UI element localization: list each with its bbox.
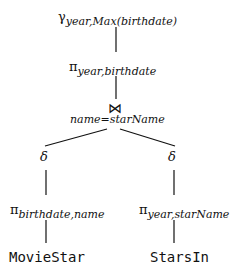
projection-top-subscript: year,birthdate xyxy=(78,65,157,78)
projection-right-subscript: year,starName xyxy=(148,208,230,221)
tree-edges xyxy=(0,0,234,279)
left-delta-node: δ xyxy=(40,150,48,163)
right-delta-node: δ xyxy=(168,150,176,163)
join-condition: name=starName xyxy=(70,114,165,125)
relation-starsin: StarsIn xyxy=(150,250,209,264)
projection-left-node: πbirthdate,name xyxy=(10,203,104,216)
relation-moviestar: MovieStar xyxy=(9,250,85,264)
gamma-symbol: γ xyxy=(58,9,66,24)
edge-join-right xyxy=(120,129,175,146)
pi-symbol: π xyxy=(10,202,19,217)
pi-symbol: π xyxy=(139,202,148,217)
projection-left-subscript: birthdate,name xyxy=(19,208,105,221)
grouping-node: γyear,Max(birthdate) xyxy=(58,10,177,23)
delta-symbol: δ xyxy=(40,149,48,164)
grouping-subscript: year,Max(birthdate) xyxy=(66,15,177,28)
projection-right-node: πyear,starName xyxy=(139,203,229,216)
pi-symbol: π xyxy=(69,59,78,74)
delta-symbol: δ xyxy=(168,149,176,164)
edge-join-left xyxy=(45,129,107,146)
projection-top-node: πyear,birthdate xyxy=(69,60,156,73)
